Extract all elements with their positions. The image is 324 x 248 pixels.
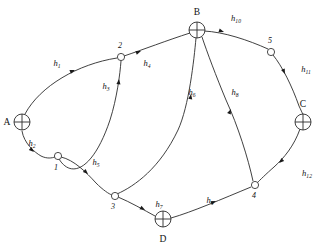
node-label-5: 5 [268, 36, 272, 45]
node-2[interactable] [117, 53, 124, 60]
node-label-C: C [300, 99, 306, 109]
edge-h3 [59, 61, 121, 169]
graph-canvas: h1h2h3h4h5h6h7h8h9h10h11h12ABCD12345 [0, 0, 324, 248]
node-4[interactable] [251, 181, 258, 188]
arrowhead-h12 [278, 158, 285, 164]
signal-flow-graph: h1h2h3h4h5h6h7h8h9h10h11h12ABCD12345 [0, 0, 324, 248]
labels-layer: h1h2h3h4h5h6h7h8h9h10h11h12ABCD12345 [4, 7, 313, 244]
edge-label-h8: h8 [231, 87, 238, 98]
node-C[interactable] [295, 114, 311, 130]
edge-label-h5: h5 [92, 157, 99, 168]
node-label-1: 1 [54, 163, 58, 172]
edge-label-h9: h9 [206, 195, 213, 206]
edge-h6 [117, 38, 196, 194]
edge-h11 [273, 55, 303, 114]
edge-label-h4: h4 [143, 58, 150, 69]
edge-label-h6: h6 [188, 87, 195, 98]
edge-h4 [124, 33, 190, 56]
node-3[interactable] [111, 192, 118, 199]
node-label-4: 4 [252, 191, 256, 200]
edge-h12 [257, 129, 300, 183]
node-label-D: D [160, 234, 167, 244]
arrowheads-layer [29, 28, 287, 211]
node-5[interactable] [267, 48, 274, 55]
node-D[interactable] [155, 211, 171, 227]
edge-label-h12: h12 [302, 168, 312, 179]
arrowhead-h3 [116, 79, 121, 85]
edge-h8 [202, 37, 253, 181]
edge-label-h7: h7 [155, 199, 162, 210]
edge-h2 [22, 131, 55, 158]
edge-label-h3: h3 [102, 81, 109, 92]
node-B[interactable] [189, 22, 205, 38]
node-label-2: 2 [118, 41, 122, 50]
edge-label-h11: h11 [301, 64, 311, 75]
nodes-layer [14, 22, 311, 227]
edge-label-h1: h1 [53, 58, 60, 69]
edge-label-h10: h10 [231, 13, 241, 24]
edges-layer [22, 31, 303, 218]
node-label-A: A [4, 117, 11, 127]
edge-h10 [204, 31, 268, 49]
edge-h7 [118, 197, 155, 216]
node-A[interactable] [14, 114, 30, 130]
node-label-3: 3 [110, 202, 115, 211]
arrowhead-h11 [281, 68, 287, 74]
node-label-B: B [194, 7, 200, 17]
edge-label-h2: h2 [28, 138, 35, 149]
node-1[interactable] [54, 152, 61, 159]
